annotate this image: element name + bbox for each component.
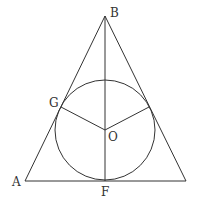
- label-a: A: [12, 176, 21, 188]
- segment-og: [61, 107, 105, 130]
- diagram: B G O A F: [0, 0, 197, 203]
- label-f: F: [101, 186, 109, 198]
- segment-oh: [105, 107, 149, 130]
- geometry-figure: [0, 0, 197, 203]
- label-g: G: [49, 97, 59, 109]
- label-o: O: [108, 131, 118, 143]
- label-b: B: [110, 7, 119, 19]
